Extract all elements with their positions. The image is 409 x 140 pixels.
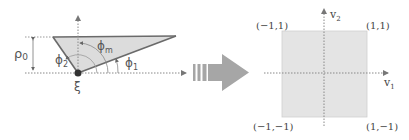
right-diagram: (−1,1) (1,1) (−1,−1) (1,−1) v2 v1 [253,8,398,132]
triangle-top-edge [53,36,176,37]
corner-label-bottom-right: (1,−1) [366,121,398,132]
diagram-canvas: ρ0 ϕm ϕ2 ϕ1 ξ (−1,1) (1,1) (−1,−1) (1,−1… [0,0,409,140]
transform-arrow [193,54,249,91]
arrow-bar-3 [203,64,207,81]
xi-point [75,70,82,77]
xi-label: ξ [74,80,81,94]
arrow-bar-2 [198,64,201,81]
left-diagram: ρ0 ϕm ϕ2 ϕ1 ξ [14,16,186,94]
corner-label-top-left: (−1,1) [256,20,288,31]
corner-label-bottom-left: (−1,−1) [253,121,294,132]
rho-label: ρ0 [14,46,28,62]
v1-label: v1 [383,76,395,91]
phi-1-label: ϕ1 [125,56,138,72]
arrow-bar-1 [193,64,196,81]
corner-label-top-right: (1,1) [366,20,390,31]
triangle-region [53,36,176,73]
phi-1-arc [116,59,118,73]
arrow-head [208,54,249,91]
v2-label: v2 [329,8,341,23]
